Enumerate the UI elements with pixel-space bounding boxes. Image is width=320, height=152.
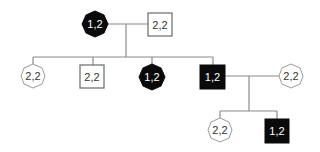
genotype-label: 1,2 — [205, 71, 220, 83]
individual-ii2: 2,2 — [80, 65, 104, 88]
individual-i2: 2,2 — [148, 13, 172, 36]
genotype-label: 1,2 — [269, 125, 284, 137]
individual-iii1: 2,2 — [208, 118, 232, 142]
individual-iii2: 1,2 — [265, 119, 289, 143]
individual-ii1: 2,2 — [21, 64, 45, 88]
genotype-label: 1,2 — [87, 18, 102, 30]
genotype-label: 2,2 — [152, 19, 167, 31]
pedigree-diagram: 1,2 2,2 2,2 2,2 1,2 1,2 2,2 2,2 1,2 — [0, 0, 320, 152]
genotype-label: 2,2 — [84, 71, 99, 83]
genotype-label: 1,2 — [144, 71, 159, 83]
genotype-label: 2,2 — [25, 70, 40, 82]
genotype-label: 2,2 — [283, 70, 298, 82]
individual-ii5: 2,2 — [279, 64, 303, 88]
individual-ii3: 1,2 — [139, 64, 165, 90]
genotype-label: 2,2 — [212, 124, 227, 136]
individual-ii4: 1,2 — [200, 65, 225, 89]
individual-i1: 1,2 — [82, 11, 108, 37]
